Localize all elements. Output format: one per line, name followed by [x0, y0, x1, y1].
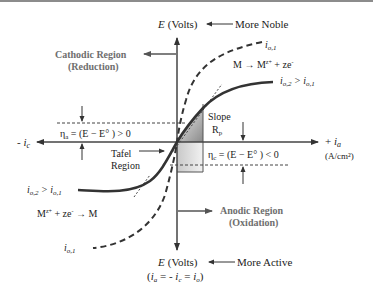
slope-label: Slope	[208, 111, 231, 122]
cathodic-overpotential-label: ηc = (E − E° ) < 0	[208, 149, 279, 162]
polarization-diagram: E(Volts) More Noble Cathodic Region (Red…	[0, 0, 373, 299]
cathodic-reaction: Mz+ + ze- → M	[37, 208, 97, 219]
tafel-label-line2: Region	[111, 160, 140, 171]
cathodic-region-title: Cathodic Region	[55, 49, 127, 60]
solid-curve-right-label: io,2 > io,1	[280, 75, 315, 88]
more-active-label: More Active	[237, 256, 292, 268]
cathodic-region-sub: (Reduction)	[68, 61, 119, 73]
anodic-region-sub: (Oxidation)	[229, 217, 278, 229]
tafel-label-line1: Tafel	[111, 148, 132, 159]
more-noble-label: More Noble	[235, 18, 289, 30]
anodic-reaction: M → Mz+ + ze-	[233, 59, 293, 70]
anodic-region-title: Anodic Region	[220, 205, 284, 216]
solid-curve-left-label: io,2 > io,1	[27, 184, 62, 197]
dashed-curve-top-label: io,1	[265, 39, 277, 52]
slope-rp-label: Rp	[212, 124, 223, 137]
x-axis-right-label: + ia	[325, 135, 341, 149]
x-axis-left-label: - ic	[17, 136, 30, 150]
dashed-curve-bottom-label: io,1	[64, 242, 76, 255]
y-axis-bottom-label: E(Volts)	[157, 256, 198, 269]
y-axis-bottom-equation: (ia = - ic = io)	[147, 270, 204, 284]
anodic-overpotential-label: ηa = (E − E° ) > 0	[60, 128, 131, 141]
y-axis-top-label: E(Volts)	[157, 18, 198, 31]
x-axis-units: (A/cm²)	[325, 151, 354, 161]
